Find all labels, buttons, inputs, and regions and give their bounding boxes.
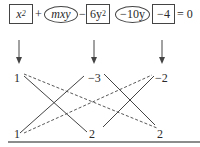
factor-bottom-2: 2: [89, 128, 95, 140]
factor-top-1: 1: [14, 72, 20, 84]
solid-line: [24, 76, 87, 132]
solid-line: [103, 76, 154, 127]
arrowhead-icon: [91, 57, 97, 64]
arrowhead-icon: [159, 57, 165, 64]
solid-line: [104, 74, 155, 125]
factor-top-2: −3: [88, 72, 101, 84]
factor-bottom-3: 2: [157, 128, 163, 140]
factor-top-3: −2: [155, 72, 168, 84]
arrowhead-icon: [16, 57, 22, 64]
solid-line: [20, 76, 84, 133]
factor-bottom-1: 1: [14, 128, 20, 140]
